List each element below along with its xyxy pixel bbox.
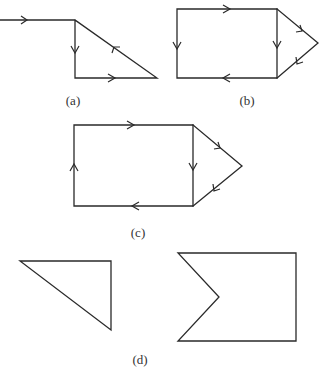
figure-c-rect — [74, 125, 193, 206]
arrow-up-left-icon — [112, 47, 120, 53]
figure-c: (c) — [70, 121, 242, 240]
figure-c-label: (c) — [131, 225, 145, 240]
figure-d-triangle — [20, 261, 111, 330]
diagram-canvas: (a) (b) (c) (d) — [0, 0, 322, 380]
figure-b-point — [277, 9, 318, 78]
figure-a-label: (a) — [66, 93, 80, 108]
figure-b-rect — [177, 9, 277, 78]
figure-c-point — [193, 125, 242, 206]
figure-b: (b) — [173, 5, 318, 108]
figure-b-label: (b) — [239, 93, 254, 108]
figure-d-notched-rect — [178, 253, 296, 341]
figure-d: (d) — [20, 253, 296, 367]
figure-d-label: (d) — [132, 352, 147, 367]
figure-a-edges — [0, 20, 157, 78]
figure-a: (a) — [0, 16, 157, 108]
